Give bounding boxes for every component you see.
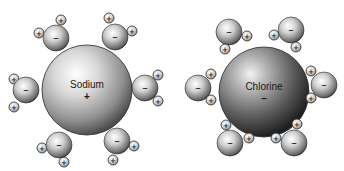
- svg-text:+: +: [223, 122, 229, 130]
- hydrogen-atom: +: [244, 133, 254, 143]
- plus-sign: +: [155, 72, 161, 80]
- minus-sign: –: [195, 83, 200, 93]
- hydrogen-atom: +: [153, 96, 163, 106]
- svg-text:+: +: [308, 95, 314, 103]
- minus-sign: –: [112, 32, 117, 42]
- hydrogen-atom: +: [108, 155, 118, 165]
- hydrogen-atom: +: [306, 93, 316, 103]
- minus-sign: –: [23, 85, 28, 95]
- plus-sign: +: [155, 98, 161, 106]
- ion-chlorine: ––––––++++++++++++Chlorine–: [185, 17, 337, 156]
- plus-sign: +: [106, 15, 112, 23]
- hydrogen-atom: +: [292, 119, 302, 129]
- hydrogen-atom: +: [127, 26, 137, 36]
- hydrogen-atom: +: [271, 133, 281, 143]
- hydrogen-atom: +: [221, 120, 231, 130]
- svg-text:+: +: [271, 32, 277, 40]
- plus-sign: +: [39, 145, 45, 153]
- water-molecule: ++–: [102, 13, 137, 50]
- water-molecule: ++–: [37, 132, 72, 167]
- svg-text:+: +: [293, 44, 299, 52]
- svg-text:+: +: [244, 33, 250, 41]
- hydrogen-atom: +: [104, 13, 114, 23]
- minus-sign: –: [114, 136, 119, 146]
- svg-text:+: +: [222, 46, 228, 54]
- hydrogen-atom: +: [153, 70, 163, 80]
- hydrogen-atom: +: [206, 95, 216, 105]
- minus-sign: –: [53, 33, 58, 43]
- hydrogen-atom: +: [306, 66, 316, 76]
- ion-charge-label: +: [84, 91, 90, 102]
- water-molecule: –: [278, 17, 304, 43]
- plus-sign: +: [110, 157, 116, 165]
- hydrogen-atom: +: [37, 143, 47, 153]
- svg-text:+: +: [294, 121, 300, 129]
- hydrogen-atom: +: [9, 102, 19, 112]
- minus-sign: –: [288, 25, 293, 35]
- minus-sign: –: [56, 140, 61, 150]
- minus-sign: –: [226, 27, 231, 37]
- hydrogen-atom: +: [56, 15, 66, 25]
- minus-sign: –: [321, 80, 326, 90]
- minus-sign: –: [227, 138, 232, 148]
- svg-text:+: +: [308, 68, 314, 76]
- hydrogen-atom: +: [59, 157, 69, 167]
- water-molecule: –: [217, 130, 243, 156]
- minus-sign: –: [142, 83, 147, 93]
- hydrogen-atom: +: [220, 44, 230, 54]
- water-molecule: ++–: [9, 74, 39, 112]
- svg-text:+: +: [208, 71, 214, 79]
- plus-sign: +: [131, 143, 137, 151]
- hydrogen-atom: +: [291, 42, 301, 52]
- water-molecule: –: [216, 19, 242, 45]
- water-molecule: ++–: [132, 70, 163, 106]
- hydrogen-atom: +: [34, 28, 44, 38]
- water-molecule: –: [281, 130, 307, 156]
- ion-name-label: Chlorine: [245, 81, 283, 92]
- minus-sign: –: [291, 138, 296, 148]
- hydrogen-atom: +: [129, 141, 139, 151]
- water-molecule: ++–: [104, 128, 139, 165]
- hydration-diagram: ++–++–++–++–++–++–Sodium+––––––+++++++++…: [0, 0, 344, 171]
- svg-text:+: +: [208, 97, 214, 105]
- svg-text:+: +: [273, 135, 279, 143]
- ion-name-label: Sodium: [70, 79, 104, 90]
- hydrogen-atom: +: [242, 31, 252, 41]
- ion-sodium: ++–++–++–++–++–++–Sodium+: [9, 13, 163, 167]
- water-molecule: ++–: [34, 15, 69, 51]
- ion-sphere: [42, 45, 132, 135]
- plus-sign: +: [36, 30, 42, 38]
- water-molecule: –: [311, 72, 337, 98]
- svg-text:+: +: [246, 135, 252, 143]
- hydrogen-atom: +: [269, 30, 279, 40]
- plus-sign: +: [129, 28, 135, 36]
- plus-sign: +: [61, 159, 67, 167]
- plus-sign: +: [11, 104, 17, 112]
- hydrogen-atom: +: [206, 69, 216, 79]
- plus-sign: +: [58, 17, 64, 25]
- ion-charge-label: –: [261, 93, 267, 104]
